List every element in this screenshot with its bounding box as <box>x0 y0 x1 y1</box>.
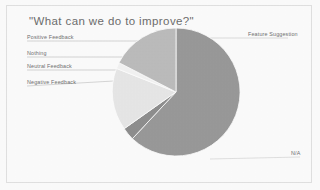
leader-line-na <box>210 157 300 159</box>
label-positive-feedback: Positive Feedback <box>27 34 74 40</box>
label-neutral-feedback: Neutral Feedback <box>27 63 72 69</box>
label-feature-suggestion: Feature Suggestion <box>248 31 298 37</box>
label-na: N/A <box>291 150 300 156</box>
chart-page: "What can we do to improve?" Positive Fe… <box>0 0 320 190</box>
pie-chart <box>0 0 320 190</box>
label-nothing: Nothing <box>27 50 47 56</box>
label-negative-feedback: Negative Feedback <box>27 79 76 85</box>
pie-slices <box>112 28 240 156</box>
